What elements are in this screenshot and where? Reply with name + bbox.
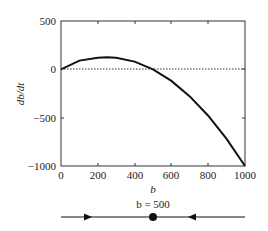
arrow-right-icon — [84, 214, 92, 221]
y-tick-label: −500 — [33, 112, 56, 124]
x-tick-label: 200 — [90, 169, 107, 181]
y-tick-label: −1000 — [28, 160, 57, 172]
y-tick-label: 0 — [51, 63, 57, 75]
data-curve — [61, 57, 245, 166]
plot-frame — [61, 21, 245, 166]
x-tick-label: 1000 — [234, 169, 257, 181]
equilibrium-label: b = 500 — [136, 198, 170, 210]
x-tick-label: 600 — [163, 169, 180, 181]
y-tick-label: 500 — [40, 15, 57, 27]
x-tick-label: 0 — [58, 169, 64, 181]
arrow-left-icon — [188, 214, 196, 221]
tick-marks — [61, 21, 245, 166]
equilibrium-point — [149, 213, 157, 221]
chart: 500 0 −500 −1000 0 200 400 600 800 1000 … — [0, 0, 268, 231]
x-tick-label: 800 — [200, 169, 217, 181]
y-axis-label: db/dt — [14, 82, 26, 106]
x-axis-label: b — [150, 183, 156, 195]
x-tick-label: 400 — [127, 169, 144, 181]
